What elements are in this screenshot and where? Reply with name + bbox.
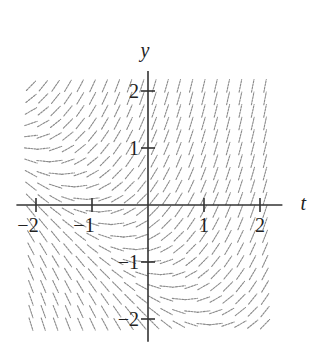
slope-segment [185, 311, 198, 312]
slope-segment [102, 105, 108, 117]
slope-segment [78, 306, 84, 318]
slope-segment [25, 135, 38, 137]
slope-segment [198, 283, 209, 289]
slope-segment [174, 232, 183, 241]
axes: −2−112 21−1−2 t y [16, 39, 306, 342]
slope-segment [238, 180, 242, 192]
slope-segment [37, 161, 50, 162]
slope-segment [186, 271, 197, 277]
slope-segment [86, 184, 98, 188]
y-tick-label: 1 [129, 137, 139, 159]
slope-segment [137, 207, 147, 215]
slope-segment [25, 171, 36, 177]
slope-segment [38, 195, 48, 203]
slope-segment [114, 118, 120, 130]
slope-segment [88, 144, 97, 153]
slope-segment [202, 105, 205, 118]
slope-segment [211, 283, 221, 291]
slope-segment [65, 293, 71, 305]
slope-segment [64, 106, 72, 116]
slope-segment [225, 243, 232, 254]
slope-segment [225, 231, 231, 243]
slope-segment [238, 218, 243, 230]
slope-segment [186, 257, 196, 265]
slope-segment [177, 105, 181, 118]
slope-segment [175, 206, 182, 217]
slope-segment [176, 180, 182, 192]
slope-segment [101, 144, 109, 154]
slope-segment [160, 297, 172, 301]
slope-segment [101, 294, 108, 305]
slope-segment [52, 93, 60, 103]
t-tick-label: 2 [255, 214, 265, 236]
slope-segment [49, 173, 62, 174]
slope-segment [263, 167, 266, 180]
slope-segment [38, 120, 49, 126]
slope-segment [149, 296, 160, 302]
slope-segment [26, 194, 35, 203]
slope-segment [26, 182, 36, 190]
slope-segment [136, 221, 147, 227]
slope-segment [102, 80, 107, 92]
slope-segment [101, 282, 109, 292]
slope-segment [224, 269, 232, 279]
slope-segment [125, 169, 133, 179]
slope-segment [148, 285, 160, 289]
slope-segment [77, 281, 84, 292]
slope-segment [113, 294, 121, 304]
slope-segment [214, 117, 217, 130]
slope-segment [185, 322, 197, 326]
slope-segment [112, 196, 123, 202]
slope-segment [237, 243, 243, 255]
slope-segment [185, 284, 197, 288]
slope-segment [41, 306, 45, 318]
slope-segment [165, 92, 169, 104]
y-tick-label: −2 [118, 308, 139, 330]
slope-segment [100, 258, 110, 266]
slope-segment [201, 180, 206, 192]
slope-segment [51, 219, 60, 228]
slope-segment [66, 318, 71, 330]
slope-segment [113, 156, 121, 166]
slope-segment [165, 80, 169, 93]
slope-segment [76, 131, 85, 140]
slope-segment [213, 218, 219, 230]
slope-segment [53, 318, 57, 330]
slope-segment [127, 118, 133, 130]
slope-segment [164, 168, 170, 180]
slope-segment [77, 293, 83, 305]
slope-segment [261, 307, 269, 317]
slope-segment [213, 193, 218, 205]
slope-segment [53, 306, 58, 318]
slope-segment [140, 105, 145, 117]
slope-segment [235, 308, 245, 316]
slope-segment [226, 155, 230, 167]
slope-segment [164, 130, 169, 142]
slope-segment [239, 92, 242, 105]
slope-segment [152, 105, 156, 117]
slope-segment [201, 168, 206, 180]
slope-segment [250, 256, 256, 268]
slope-segment [99, 246, 110, 252]
slope-segment [100, 170, 110, 178]
slope-segment [197, 311, 210, 313]
slope-segment [150, 207, 159, 216]
slope-segment [75, 145, 85, 153]
slope-segment [65, 80, 72, 91]
slope-segment [190, 80, 193, 93]
slope-segment [251, 130, 254, 143]
slope-segment [261, 320, 270, 329]
t-tick-label: −1 [73, 214, 94, 236]
slope-segment [123, 248, 136, 249]
slope-segment [226, 205, 231, 217]
slope-segment [176, 193, 183, 204]
slope-segment [238, 205, 243, 217]
slope-segment [77, 269, 84, 280]
slope-segment [199, 257, 208, 266]
slope-segment [164, 105, 168, 117]
slope-segment [227, 80, 230, 93]
slope-segment [214, 92, 217, 105]
slope-segment [151, 155, 157, 167]
slope-segment [250, 243, 256, 255]
slope-segment [237, 269, 244, 280]
